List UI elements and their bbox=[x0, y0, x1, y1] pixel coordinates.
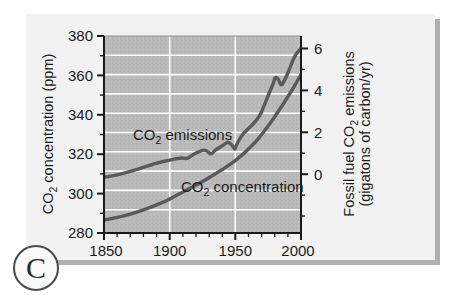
x-tick-label-1900: 1900 bbox=[153, 242, 186, 259]
series-label-concentration-part1: CO bbox=[181, 178, 204, 195]
left-tick-label-380: 380 bbox=[68, 27, 93, 44]
right-axis-tick-labels: 6 4 2 0 bbox=[314, 40, 322, 183]
svg-text:CO2 concentration (ppm): CO2 concentration (ppm) bbox=[40, 54, 59, 215]
right-tick-label-4: 4 bbox=[314, 82, 322, 99]
right-axis-title-part1: Fossil fuel CO bbox=[341, 126, 357, 217]
figure-root: 380 360 340 320 300 280 CO2 concentratio… bbox=[0, 0, 468, 303]
left-axis-title-part2: concentration (ppm) bbox=[40, 54, 56, 187]
right-tick-label-0: 0 bbox=[314, 166, 322, 183]
x-axis-tick-labels: 1850 1900 1950 2000 bbox=[89, 242, 314, 259]
x-tick-label-2000: 2000 bbox=[281, 242, 314, 259]
left-tick-label-320: 320 bbox=[68, 145, 93, 162]
left-tick-label-280: 280 bbox=[68, 224, 93, 241]
left-tick-label-360: 360 bbox=[68, 67, 93, 84]
left-axis-title-part1: CO bbox=[40, 193, 56, 215]
left-axis-tick-labels: 380 360 340 320 300 280 bbox=[68, 27, 93, 241]
left-axis-title: CO2 concentration (ppm) bbox=[40, 54, 59, 215]
right-axis-title-line2: (gigatons of carbon/yr) bbox=[357, 61, 373, 206]
right-tick-label-6: 6 bbox=[314, 40, 322, 57]
series-label-emissions-part1: CO bbox=[133, 126, 156, 143]
x-tick-label-1950: 1950 bbox=[219, 242, 252, 259]
x-axis-major-ticks bbox=[104, 233, 301, 240]
panel-letter-c: C bbox=[13, 245, 59, 291]
right-tick-label-2: 2 bbox=[314, 124, 322, 141]
right-axis-title: Fossil fuel CO2 emissions (gigatons of c… bbox=[341, 51, 373, 216]
right-axis-title-part2: emissions bbox=[341, 51, 357, 120]
left-tick-label-300: 300 bbox=[68, 185, 93, 202]
panel-letter-text: C bbox=[26, 253, 46, 283]
series-label-concentration-part2: concentration bbox=[209, 178, 303, 195]
co2-chart: 380 360 340 320 300 280 CO2 concentratio… bbox=[26, 14, 435, 260]
chart-panel: 380 360 340 320 300 280 CO2 concentratio… bbox=[25, 13, 435, 260]
series-label-emissions-part2: emissions bbox=[161, 126, 232, 143]
x-tick-label-1850: 1850 bbox=[89, 242, 122, 259]
left-tick-label-340: 340 bbox=[68, 106, 93, 123]
